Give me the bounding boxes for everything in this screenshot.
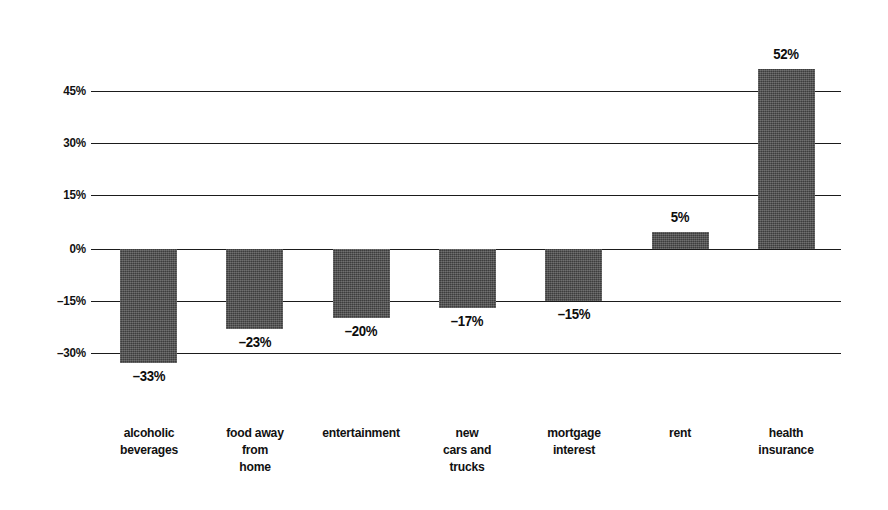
category-label-health-insurance: healthinsurance [732,424,840,458]
bar-value-rent: 5% [632,208,729,225]
category-label-line: insurance [732,441,840,458]
category-label-line: entertainment [307,424,415,441]
category-label-line: trucks [413,458,521,475]
bar-entertainment [333,249,390,318]
bar-value-mortgage-interest: –15% [525,305,622,322]
ytick-label-neg15: –15% [34,293,86,308]
category-label-line: from [201,441,309,458]
category-label-line: mortgage [520,424,628,441]
bar-value-food-away-from-home: –23% [206,333,303,350]
category-label-line: home [201,458,309,475]
category-label-alcoholic-beverages: alcoholicbeverages [95,424,203,458]
ytick-label-45: 45% [34,83,86,98]
ytick-label-neg30: –30% [34,345,86,360]
ytick-45: 45% [20,83,86,99]
ytick-0: 0% [20,241,86,257]
category-label-line: new [413,424,521,441]
ytick-label-15: 15% [34,187,86,202]
category-label-line: health [732,424,840,441]
ytick-neg15: –15% [20,293,86,309]
bar-new-cars-and-trucks [439,249,496,308]
bar-food-away-from-home [226,249,283,329]
bar-rent [652,232,709,249]
ytick-label-30: 30% [34,135,86,150]
category-label-mortgage-interest: mortgageinterest [520,424,628,458]
category-label-line: cars and [413,441,521,458]
bar-health-insurance [758,69,815,249]
bar-alcoholic-beverages [120,249,177,363]
category-label-food-away-from-home: food awayfromhome [201,424,309,475]
gridline-15 [91,195,841,196]
category-label-line: beverages [95,441,203,458]
ytick-30: 30% [20,135,86,151]
bar-value-health-insurance: 52% [738,45,835,62]
ytick-15: 15% [20,187,86,203]
gridline-neg30 [91,353,841,354]
bar-value-alcoholic-beverages: –33% [100,367,197,384]
gridline-45 [91,91,841,92]
category-label-rent: rent [626,424,734,441]
category-label-line: food away [201,424,309,441]
gridline-30 [91,143,841,144]
bar-value-entertainment: –20% [313,322,410,339]
bar-chart: 45% 30% 15% 0% –15% –30% –33% –23% –20% … [0,0,888,510]
category-label-line: alcoholic [95,424,203,441]
ytick-label-0: 0% [34,241,86,256]
bar-mortgage-interest [545,249,602,301]
bar-value-new-cars-and-trucks: –17% [419,312,516,329]
category-label-entertainment: entertainment [307,424,415,441]
ytick-neg30: –30% [20,345,86,361]
category-label-line: interest [520,441,628,458]
category-label-line: rent [626,424,734,441]
category-label-new-cars-and-trucks: newcars andtrucks [413,424,521,475]
